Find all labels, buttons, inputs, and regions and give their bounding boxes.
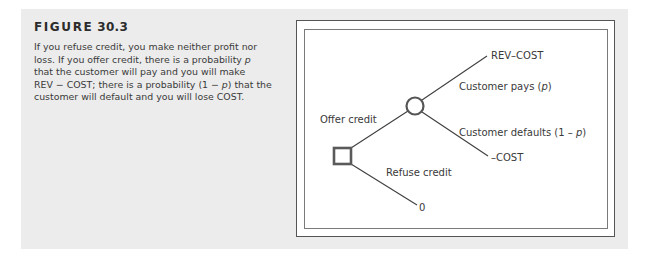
label-customer-pays: Customer pays (p)	[459, 81, 552, 93]
chance-node-circle-icon	[407, 98, 424, 115]
decision-node-square-icon	[334, 148, 351, 164]
label-customer-defaults: Customer defaults (1 – p)	[459, 127, 586, 139]
payoff-negative-cost: –COST	[491, 152, 523, 164]
branch-customer-pays	[422, 56, 487, 100]
label-offer-credit: Offer credit	[320, 114, 377, 126]
payoff-zero: 0	[419, 202, 425, 214]
payoff-rev-cost: REV–COST	[491, 50, 543, 62]
label-refuse-credit: Refuse credit	[386, 167, 452, 179]
